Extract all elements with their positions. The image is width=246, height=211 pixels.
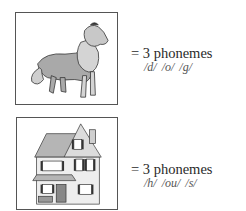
dog-illustration bbox=[16, 13, 117, 104]
phoneme-list: /d/ /o/ /g/ bbox=[144, 61, 212, 74]
phoneme-list: /h/ /ou/ /s/ bbox=[144, 177, 212, 190]
house-phoneme-label: = 3 phonemes /h/ /ou/ /s/ bbox=[131, 162, 212, 190]
phoneme-count: = 3 phonemes bbox=[131, 46, 212, 61]
house-picture-frame bbox=[16, 117, 118, 210]
phoneme-count: = 3 phonemes bbox=[131, 162, 212, 177]
house-illustration bbox=[17, 118, 117, 209]
dog-phoneme-label: = 3 phonemes /d/ /o/ /g/ bbox=[131, 46, 212, 74]
dog-picture-frame bbox=[15, 12, 118, 105]
